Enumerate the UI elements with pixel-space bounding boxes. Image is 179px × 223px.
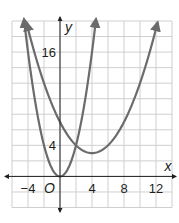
x-tick-label: 4: [88, 181, 95, 196]
origin-label: O: [44, 180, 55, 196]
x-axis-label: x: [164, 158, 173, 174]
x-tick-label: 12: [149, 181, 163, 196]
parabola-graph: −44812416Oxy: [0, 0, 179, 223]
y-tick-label: 4: [49, 138, 56, 153]
x-tick-label: 8: [120, 181, 127, 196]
labels: −44812416Oxy: [21, 19, 173, 196]
y-axis-label: y: [64, 19, 73, 35]
x-tick-label: −4: [21, 181, 36, 196]
y-tick-label: 16: [42, 45, 56, 60]
